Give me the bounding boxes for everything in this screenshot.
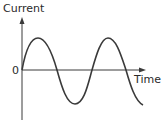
current-time-chart [0, 0, 165, 123]
origin-label: 0 [12, 65, 19, 76]
x-axis-arrow-icon [139, 68, 146, 73]
x-axis [22, 68, 146, 73]
y-axis-arrow-icon [20, 17, 25, 24]
sine-wave-curve [22, 38, 143, 105]
y-axis-label: Current [3, 3, 44, 14]
x-axis-label: Time [134, 74, 161, 85]
